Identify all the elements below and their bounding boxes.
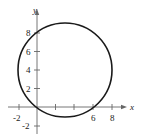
y-tick-label: 2 xyxy=(26,84,31,94)
circle-curve xyxy=(18,23,112,117)
x-axis-arrow-icon xyxy=(121,105,127,109)
y-axis-label: y xyxy=(32,5,37,15)
circle-plot: -2 6 8 8 6 4 2 -2 x y xyxy=(0,0,142,140)
x-tick-label: 6 xyxy=(91,113,96,123)
x-tick-label: 8 xyxy=(110,113,115,123)
x-axis-label: x xyxy=(129,102,134,112)
y-tick-label: 8 xyxy=(26,28,31,38)
y-tick-label: -2 xyxy=(22,121,30,131)
y-tick-label: 6 xyxy=(26,47,31,57)
x-tick-label: -2 xyxy=(13,113,21,123)
y-tick-label: 4 xyxy=(26,65,31,75)
